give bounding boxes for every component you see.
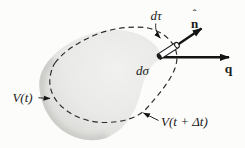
figure: dτ ˆ n q dσ V(t) V(t + Δt) (0, 0, 245, 148)
q-label: q (225, 61, 233, 76)
v-t-pointer-arrow (39, 98, 51, 99)
d-tau-label: dτ (150, 8, 163, 23)
v-t-dt-label: V(t + Δt) (161, 114, 208, 129)
d-sigma-label: dσ (136, 63, 150, 78)
figure-canvas: dτ ˆ n q dσ V(t) V(t + Δt) (0, 0, 245, 148)
n-hat-label: n (191, 16, 199, 31)
v-t-dt-pointer-arrow (144, 113, 159, 121)
v-t-label: V(t) (12, 90, 32, 105)
